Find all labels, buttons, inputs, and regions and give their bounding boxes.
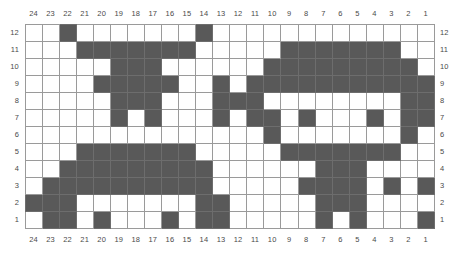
pattern-cell-r6-c17[interactable] — [145, 127, 162, 144]
pattern-cell-r2-c12[interactable] — [230, 195, 247, 212]
pattern-cell-r12-c12[interactable] — [230, 25, 247, 42]
pattern-cell-r4-c8[interactable] — [298, 161, 315, 178]
pattern-cell-r1-c10[interactable] — [264, 212, 281, 229]
pattern-cell-r6-c15[interactable] — [179, 127, 196, 144]
pattern-cell-r10-c14[interactable] — [196, 59, 213, 76]
pattern-cell-r5-c20[interactable] — [94, 144, 111, 161]
pattern-cell-r1-c17[interactable] — [145, 212, 162, 229]
pattern-cell-r9-c8[interactable] — [298, 76, 315, 93]
pattern-cell-r8-c16[interactable] — [162, 93, 179, 110]
pattern-cell-r2-c21[interactable] — [77, 195, 94, 212]
pattern-cell-r12-c18[interactable] — [128, 25, 145, 42]
pattern-cell-r4-c19[interactable] — [111, 161, 128, 178]
pattern-cell-r4-c20[interactable] — [94, 161, 111, 178]
pattern-cell-r6-c2[interactable] — [400, 127, 417, 144]
pattern-cell-r10-c19[interactable] — [111, 59, 128, 76]
pattern-cell-r11-c5[interactable] — [349, 42, 366, 59]
pattern-cell-r12-c20[interactable] — [94, 25, 111, 42]
pattern-cell-r5-c3[interactable] — [383, 144, 400, 161]
pattern-cell-r4-c1[interactable] — [417, 161, 434, 178]
pattern-cell-r12-c7[interactable] — [315, 25, 332, 42]
pattern-cell-r12-c23[interactable] — [43, 25, 60, 42]
pattern-cell-r10-c3[interactable] — [383, 59, 400, 76]
pattern-cell-r12-c3[interactable] — [383, 25, 400, 42]
pattern-cell-r9-c21[interactable] — [77, 76, 94, 93]
pattern-cell-r7-c12[interactable] — [230, 110, 247, 127]
pattern-cell-r10-c20[interactable] — [94, 59, 111, 76]
pattern-cell-r6-c14[interactable] — [196, 127, 213, 144]
pattern-cell-r1-c18[interactable] — [128, 212, 145, 229]
pattern-cell-r10-c11[interactable] — [247, 59, 264, 76]
pattern-cell-r8-c21[interactable] — [77, 93, 94, 110]
pattern-cell-r9-c24[interactable] — [26, 76, 43, 93]
pattern-cell-r9-c18[interactable] — [128, 76, 145, 93]
pattern-cell-r5-c19[interactable] — [111, 144, 128, 161]
pattern-cell-r7-c18[interactable] — [128, 110, 145, 127]
pattern-cell-r7-c3[interactable] — [383, 110, 400, 127]
pattern-cell-r3-c17[interactable] — [145, 178, 162, 195]
pattern-cell-r5-c1[interactable] — [417, 144, 434, 161]
pattern-cell-r1-c15[interactable] — [179, 212, 196, 229]
pattern-cell-r9-c1[interactable] — [417, 76, 434, 93]
pattern-cell-r10-c23[interactable] — [43, 59, 60, 76]
pattern-cell-r11-c11[interactable] — [247, 42, 264, 59]
pattern-cell-r3-c2[interactable] — [400, 178, 417, 195]
pattern-cell-r4-c23[interactable] — [43, 161, 60, 178]
pattern-cell-r3-c1[interactable] — [417, 178, 434, 195]
pattern-cell-r10-c17[interactable] — [145, 59, 162, 76]
pattern-cell-r4-c7[interactable] — [315, 161, 332, 178]
pattern-cell-r11-c12[interactable] — [230, 42, 247, 59]
pattern-cell-r6-c12[interactable] — [230, 127, 247, 144]
pattern-cell-r1-c21[interactable] — [77, 212, 94, 229]
pattern-cell-r3-c5[interactable] — [349, 178, 366, 195]
pattern-cell-r2-c3[interactable] — [383, 195, 400, 212]
pattern-cell-r2-c23[interactable] — [43, 195, 60, 212]
pattern-cell-r7-c9[interactable] — [281, 110, 298, 127]
pattern-cell-r2-c4[interactable] — [366, 195, 383, 212]
pattern-cell-r2-c18[interactable] — [128, 195, 145, 212]
pattern-cell-r5-c10[interactable] — [264, 144, 281, 161]
pattern-cell-r9-c2[interactable] — [400, 76, 417, 93]
pattern-cell-r6-c10[interactable] — [264, 127, 281, 144]
pattern-cell-r1-c11[interactable] — [247, 212, 264, 229]
pattern-cell-r5-c24[interactable] — [26, 144, 43, 161]
pattern-cell-r4-c13[interactable] — [213, 161, 230, 178]
pattern-cell-r10-c12[interactable] — [230, 59, 247, 76]
pattern-cell-r3-c19[interactable] — [111, 178, 128, 195]
pattern-cell-r5-c9[interactable] — [281, 144, 298, 161]
pattern-cell-r6-c9[interactable] — [281, 127, 298, 144]
pattern-cell-r12-c5[interactable] — [349, 25, 366, 42]
pattern-cell-r9-c23[interactable] — [43, 76, 60, 93]
pattern-cell-r1-c23[interactable] — [43, 212, 60, 229]
pattern-cell-r9-c22[interactable] — [60, 76, 77, 93]
pattern-cell-r2-c7[interactable] — [315, 195, 332, 212]
pattern-cell-r2-c17[interactable] — [145, 195, 162, 212]
pattern-cell-r12-c15[interactable] — [179, 25, 196, 42]
pattern-cell-r6-c8[interactable] — [298, 127, 315, 144]
pattern-cell-r11-c23[interactable] — [43, 42, 60, 59]
pattern-cell-r8-c22[interactable] — [60, 93, 77, 110]
pattern-cell-r8-c17[interactable] — [145, 93, 162, 110]
pattern-cell-r12-c21[interactable] — [77, 25, 94, 42]
pattern-cell-r7-c13[interactable] — [213, 110, 230, 127]
pattern-cell-r8-c1[interactable] — [417, 93, 434, 110]
pattern-cell-r12-c17[interactable] — [145, 25, 162, 42]
pattern-cell-r3-c16[interactable] — [162, 178, 179, 195]
pattern-cell-r12-c14[interactable] — [196, 25, 213, 42]
pattern-cell-r4-c2[interactable] — [400, 161, 417, 178]
pattern-cell-r9-c7[interactable] — [315, 76, 332, 93]
pattern-cell-r8-c11[interactable] — [247, 93, 264, 110]
pattern-cell-r4-c10[interactable] — [264, 161, 281, 178]
pattern-cell-r9-c9[interactable] — [281, 76, 298, 93]
pattern-cell-r11-c15[interactable] — [179, 42, 196, 59]
pattern-cell-r1-c13[interactable] — [213, 212, 230, 229]
pattern-cell-r12-c11[interactable] — [247, 25, 264, 42]
pattern-cell-r12-c2[interactable] — [400, 25, 417, 42]
pattern-cell-r5-c2[interactable] — [400, 144, 417, 161]
pattern-cell-r2-c16[interactable] — [162, 195, 179, 212]
pattern-cell-r3-c15[interactable] — [179, 178, 196, 195]
pattern-cell-r12-c16[interactable] — [162, 25, 179, 42]
pattern-cell-r5-c8[interactable] — [298, 144, 315, 161]
pattern-cell-r3-c3[interactable] — [383, 178, 400, 195]
pattern-cell-r3-c11[interactable] — [247, 178, 264, 195]
